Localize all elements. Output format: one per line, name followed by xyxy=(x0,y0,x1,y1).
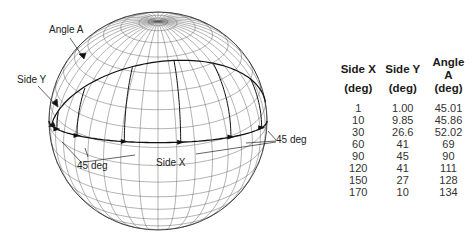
table-row: 170 10 134 xyxy=(336,186,472,198)
cell-side-y: 26.6 xyxy=(380,126,424,138)
header-side-x: Side X xyxy=(336,56,380,82)
table-row: 10 9.85 45.86 xyxy=(336,114,472,126)
table-row: 1 1.00 45.01 xyxy=(336,102,472,114)
cell-angle-a: 90 xyxy=(425,150,472,162)
table-row: 150 27 128 xyxy=(336,174,472,186)
callout-leaders xyxy=(38,38,276,163)
label-side-x: Side X xyxy=(156,157,185,168)
cell-angle-a: 69 xyxy=(425,138,472,150)
header-angle-a-unit: (deg) xyxy=(425,82,472,102)
header-side-y: Side Y xyxy=(380,56,424,82)
table-row: 60 41 69 xyxy=(336,138,472,150)
cell-side-x: 10 xyxy=(336,114,380,126)
cell-side-y: 41 xyxy=(380,138,424,150)
table-header-row: Side X Side Y Angle A xyxy=(336,56,472,82)
cell-angle-a: 128 xyxy=(425,174,472,186)
header-angle-a: Angle A xyxy=(425,56,472,82)
cell-side-x: 120 xyxy=(336,162,380,174)
cell-side-y: 27 xyxy=(380,174,424,186)
cell-angle-a: 52.02 xyxy=(425,126,472,138)
cell-side-y: 9.85 xyxy=(380,114,424,126)
cell-side-x: 150 xyxy=(336,174,380,186)
cell-side-y: 1.00 xyxy=(380,102,424,114)
label-angle-a: Angle A xyxy=(49,24,83,35)
triangle-values-table: Side X Side Y Angle A (deg) (deg) (deg) … xyxy=(336,56,472,198)
label-45deg-right: 45 deg xyxy=(276,134,307,145)
vertex-markers xyxy=(47,122,265,145)
cell-side-x: 60 xyxy=(336,138,380,150)
cell-side-y: 41 xyxy=(380,162,424,174)
cell-angle-a: 45.86 xyxy=(425,114,472,126)
cell-side-x: 170 xyxy=(336,186,380,198)
cell-side-x: 30 xyxy=(336,126,380,138)
table-header-units-row: (deg) (deg) (deg) xyxy=(336,82,472,102)
header-side-x-unit: (deg) xyxy=(336,82,380,102)
cell-side-x: 90 xyxy=(336,150,380,162)
label-45deg-left: 45 deg xyxy=(77,160,108,171)
cell-side-y: 45 xyxy=(380,150,424,162)
sphere-wireframe-grid xyxy=(49,12,267,230)
table-row: 90 45 90 xyxy=(336,150,472,162)
header-side-y-unit: (deg) xyxy=(380,82,424,102)
cell-angle-a: 111 xyxy=(425,162,472,174)
table-row: 30 26.6 52.02 xyxy=(336,126,472,138)
table-row: 120 41 111 xyxy=(336,162,472,174)
cell-side-y: 10 xyxy=(380,186,424,198)
cell-angle-a: 45.01 xyxy=(425,102,472,114)
label-side-y: Side Y xyxy=(17,74,46,85)
cell-angle-a: 134 xyxy=(425,186,472,198)
sphere-diagram xyxy=(0,0,320,235)
cell-side-x: 1 xyxy=(336,102,380,114)
